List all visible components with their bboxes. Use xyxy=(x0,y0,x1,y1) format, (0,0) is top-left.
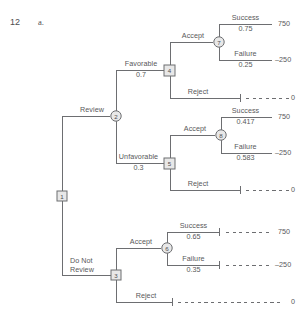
outcome-label-fav-success: Success xyxy=(224,14,267,23)
outcome-label-unf-success: Success xyxy=(224,107,267,116)
branch-prob-unfavorable: 0.3 xyxy=(113,164,164,173)
payoff-nr-failure: –250 xyxy=(275,261,291,270)
node-4-label: 4 xyxy=(164,68,175,74)
payoff-nr-success: 750 xyxy=(278,228,290,237)
outcome-prob-fav-failure: 0.25 xyxy=(224,61,267,70)
outcome-label-unf-failure: Failure xyxy=(224,143,267,152)
branch-label-review: Review xyxy=(70,106,114,115)
branch-label-favorable: Favorable xyxy=(118,60,164,69)
node-5-label: 5 xyxy=(164,161,175,167)
payoff-fav-reject: 0 xyxy=(291,94,295,103)
node-6-label: 6 xyxy=(162,246,172,252)
branch-label-do-not-review-line2: Review xyxy=(70,266,94,275)
node-3-label: 3 xyxy=(111,273,121,279)
outcome-prob-nr-failure: 0.35 xyxy=(172,266,215,275)
node-7-label: 7 xyxy=(214,40,224,46)
branch-label-reject-noreview: Reject xyxy=(125,292,167,301)
branch-label-accept-favorable: Accept xyxy=(172,32,214,41)
outcome-prob-unf-failure: 0.583 xyxy=(224,154,267,163)
outcome-prob-nr-success: 0.65 xyxy=(172,233,215,242)
branch-label-accept-noreview: Accept xyxy=(120,238,162,247)
problem-number: 12 xyxy=(10,18,20,27)
payoff-unf-failure: –250 xyxy=(275,149,291,158)
outcome-label-nr-success: Success xyxy=(172,222,215,231)
node-1-label: 1 xyxy=(57,194,67,200)
payoff-fav-success: 750 xyxy=(278,20,290,29)
outcome-prob-fav-success: 0.75 xyxy=(224,25,267,34)
branch-label-reject-favorable: Reject xyxy=(177,88,219,97)
branch-prob-favorable: 0.7 xyxy=(118,71,164,80)
outcome-prob-unf-success: 0.417 xyxy=(224,118,267,127)
payoff-fav-failure: –250 xyxy=(275,56,291,65)
node-8-label: 8 xyxy=(216,133,226,139)
branch-label-accept-unfavorable: Accept xyxy=(174,125,216,134)
payoff-nr-reject: 0 xyxy=(291,298,295,307)
part-letter: a. xyxy=(38,18,44,27)
payoff-unf-success: 750 xyxy=(278,113,290,122)
branch-label-unfavorable: Unfavorable xyxy=(113,153,164,162)
outcome-label-fav-failure: Failure xyxy=(224,50,267,59)
branch-label-reject-unfavorable: Reject xyxy=(177,180,219,189)
outcome-label-nr-failure: Failure xyxy=(172,255,215,264)
payoff-unf-reject: 0 xyxy=(291,186,295,195)
decision-tree-figure: 1 2 3 4 5 6 7 8 12 a. Review Do Not Revi… xyxy=(0,0,306,315)
